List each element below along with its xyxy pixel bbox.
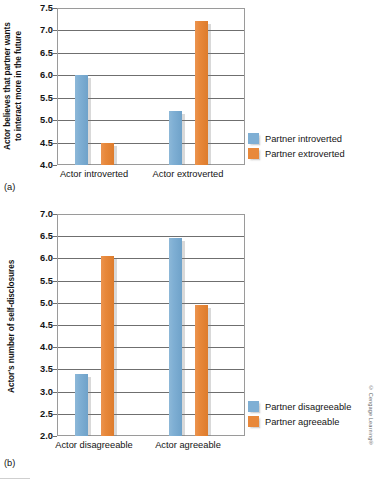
legend-b: Partner disagreeablePartner agreeable [248, 401, 351, 431]
y-tick-mark [53, 236, 57, 237]
bar-actor-disagreeable-partner-agreeable [101, 256, 114, 436]
y-tick-label: 3.5 [21, 364, 53, 374]
bar-actor-extroverted-partner-extroverted [195, 21, 208, 165]
bar-shadow [182, 114, 185, 165]
grid-line [58, 303, 244, 304]
legend-label: Partner agreeable [265, 417, 339, 427]
legend-item-partner-agreeable[interactable]: Partner agreeable [248, 416, 351, 427]
y-tick-mark [53, 143, 57, 144]
legend-label: Partner introverted [265, 134, 342, 144]
bar-shadow [88, 78, 91, 165]
y-tick-label: 6.5 [21, 48, 53, 58]
y-tick-label: 6.0 [21, 253, 53, 263]
legend-swatch-icon [248, 148, 259, 159]
bar-shadow [208, 24, 211, 165]
bar-actor-disagreeable-partner-disagreeable [75, 374, 88, 436]
y-tick-mark [53, 347, 57, 348]
y-tick-label: 5.5 [21, 93, 53, 103]
grid-line [58, 53, 244, 54]
y-tick-mark [53, 325, 57, 326]
y-tick-mark [53, 258, 57, 259]
legend-item-partner-extroverted[interactable]: Partner extroverted [248, 148, 345, 159]
bar-shadow [114, 146, 117, 165]
y-tick-mark [53, 414, 57, 415]
y-tick-mark [53, 53, 57, 54]
y-tick-mark [53, 214, 57, 215]
y-tick-label: 2.5 [21, 409, 53, 419]
y-tick-label: 4.5 [21, 138, 53, 148]
y-tick-mark [53, 303, 57, 304]
x-axis-label: Actor extroverted [118, 169, 258, 179]
bar-actor-extroverted-partner-introverted [169, 111, 182, 165]
y-tick-label: 5.0 [21, 115, 53, 125]
y-tick-mark [53, 30, 57, 31]
chart-panel-a: Actor believes that partner wants to int… [0, 0, 383, 200]
legend-label: Partner extroverted [265, 149, 345, 159]
y-tick-mark [53, 392, 57, 393]
y-tick-label: 6.0 [21, 70, 53, 80]
grid-line [58, 281, 244, 282]
y-tick-label: 5.5 [21, 276, 53, 286]
legend-a: Partner introvertedPartner extroverted [248, 133, 345, 163]
legend-swatch-icon [248, 401, 259, 412]
y-tick-label: 5.0 [21, 298, 53, 308]
y-tick-mark [53, 281, 57, 282]
grid-line [58, 236, 244, 237]
panel-label-a: (a) [4, 182, 15, 192]
y-tick-mark [53, 120, 57, 121]
y-tick-mark [53, 369, 57, 370]
bar-actor-introverted-partner-extroverted [101, 143, 114, 165]
legend-swatch-icon [248, 133, 259, 144]
grid-line [58, 258, 244, 259]
grid-line [58, 369, 244, 370]
panel-label-b: (b) [4, 458, 15, 468]
y-tick-label: 3.0 [21, 387, 53, 397]
bar-shadow [182, 241, 185, 436]
y-tick-mark [53, 165, 57, 166]
y-tick-label: 7.0 [21, 209, 53, 219]
legend-swatch-icon [248, 416, 259, 427]
figure-bar-charts: Actor believes that partner wants to int… [0, 0, 383, 481]
y-tick-mark [53, 8, 57, 9]
y-axis-title-b: Actor's number of self-disclosures [6, 220, 22, 432]
bar-actor-agreeable-partner-disagreeable [169, 238, 182, 436]
bar-actor-introverted-partner-introverted [75, 75, 88, 165]
bar-shadow [208, 308, 211, 436]
legend-item-partner-disagreeable[interactable]: Partner disagreeable [248, 401, 351, 412]
legend-label: Partner disagreeable [265, 402, 351, 412]
legend-item-partner-introverted[interactable]: Partner introverted [248, 133, 345, 144]
grid-line [58, 325, 244, 326]
y-tick-mark [53, 98, 57, 99]
y-tick-label: 6.5 [21, 231, 53, 241]
y-tick-label: 4.0 [21, 342, 53, 352]
chart-panel-b: Actor's number of self-disclosures 7.06.… [0, 200, 383, 481]
bar-shadow [88, 377, 91, 436]
grid-line [58, 30, 244, 31]
bar-shadow [114, 259, 117, 436]
y-tick-label: 7.0 [21, 25, 53, 35]
bar-actor-agreeable-partner-agreeable [195, 305, 208, 436]
y-tick-label: 7.5 [21, 3, 53, 13]
y-tick-label: 4.5 [21, 320, 53, 330]
grid-line [58, 347, 244, 348]
y-tick-mark [53, 436, 57, 437]
x-axis-label: Actor agreeable [118, 440, 258, 450]
bottom-rule [0, 478, 30, 479]
y-tick-mark [53, 75, 57, 76]
copyright-credit: © Cengage Learning® [368, 385, 374, 447]
